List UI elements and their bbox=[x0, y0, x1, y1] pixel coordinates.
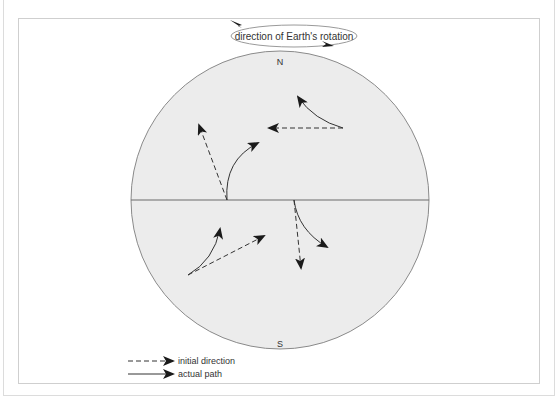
globe: N S bbox=[131, 51, 429, 349]
legend-item-initial-direction: initial direction bbox=[128, 356, 235, 366]
rotation-label: direction of Earth's rotation bbox=[235, 31, 354, 42]
rotation-indicator: direction of Earth's rotation bbox=[230, 20, 357, 47]
legend-label-actual-path: actual path bbox=[178, 369, 222, 379]
north-label: N bbox=[277, 57, 284, 67]
coriolis-diagram: direction of Earth's rotation N S initia… bbox=[0, 0, 560, 406]
rotation-arrow-left-icon bbox=[230, 20, 242, 28]
legend-item-actual-path: actual path bbox=[128, 369, 222, 379]
legend-label-initial-direction: initial direction bbox=[178, 356, 235, 366]
legend: initial direction actual path bbox=[128, 356, 235, 379]
south-label: S bbox=[277, 339, 283, 349]
